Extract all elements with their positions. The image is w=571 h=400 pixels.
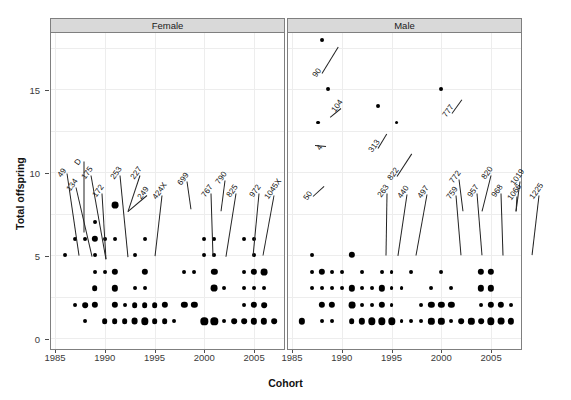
y-tick-mark — [45, 256, 49, 257]
data-point — [141, 318, 148, 325]
data-point — [242, 286, 246, 290]
data-point — [83, 320, 87, 324]
data-point — [132, 302, 138, 308]
data-point — [252, 286, 256, 290]
data-point — [131, 318, 138, 325]
data-point — [299, 318, 305, 324]
data-point — [449, 286, 453, 290]
data-point — [112, 285, 118, 291]
data-point — [438, 302, 444, 308]
data-point — [428, 302, 434, 308]
data-point — [330, 270, 334, 274]
data-point — [410, 270, 414, 274]
data-point — [181, 302, 187, 308]
data-point — [320, 320, 324, 324]
gridline-horizontal — [51, 48, 284, 49]
data-point — [192, 270, 196, 274]
gridline-horizontal — [51, 338, 284, 339]
data-point — [478, 319, 484, 325]
data-point — [63, 253, 67, 257]
data-point — [262, 286, 266, 290]
data-point — [113, 237, 117, 241]
data-point — [388, 318, 395, 325]
data-point — [439, 87, 443, 91]
data-point — [340, 286, 344, 290]
data-point — [102, 319, 108, 325]
data-point — [73, 303, 77, 307]
data-point — [348, 301, 355, 308]
data-point — [310, 286, 314, 290]
data-point — [231, 319, 237, 325]
data-point — [251, 269, 257, 275]
gridline-horizontal — [288, 131, 521, 132]
data-point — [112, 319, 118, 325]
x-tick-label: 1990 — [331, 352, 352, 363]
y-tick-mark — [45, 90, 49, 91]
data-point — [330, 320, 334, 324]
data-point — [123, 303, 127, 307]
data-point — [242, 270, 246, 274]
data-point — [498, 318, 505, 325]
data-point — [410, 320, 414, 324]
data-point — [509, 303, 513, 307]
data-point — [122, 319, 128, 325]
data-point — [242, 303, 246, 307]
data-point — [261, 318, 267, 324]
data-point — [182, 270, 186, 274]
data-point — [162, 319, 168, 325]
data-point — [438, 318, 444, 324]
y-tick-mark — [45, 173, 49, 174]
data-point — [487, 318, 494, 325]
gridline-horizontal — [51, 297, 284, 298]
data-point — [191, 302, 197, 308]
y-tick-mark — [45, 339, 49, 340]
data-point — [93, 253, 97, 257]
data-point — [82, 302, 88, 308]
data-point — [271, 319, 277, 325]
data-point — [222, 286, 226, 290]
y-tick-label: 0 — [8, 334, 40, 345]
gridline-horizontal — [288, 338, 521, 339]
data-point — [319, 269, 325, 275]
data-point — [378, 285, 384, 291]
data-point — [340, 270, 344, 274]
data-point — [390, 286, 394, 290]
label-leader-line — [532, 195, 540, 255]
male-point-label: 1225 — [528, 181, 546, 201]
data-point — [370, 286, 374, 290]
data-point — [103, 270, 107, 274]
data-point — [143, 286, 147, 290]
gridline-vertical — [392, 33, 393, 349]
x-tick-label: 1995 — [381, 352, 402, 363]
data-point — [201, 318, 208, 325]
panel-male-title: Male — [287, 18, 522, 33]
data-point — [400, 286, 404, 290]
data-point — [222, 320, 226, 324]
x-tick-label: 1985 — [44, 352, 65, 363]
data-point — [360, 286, 364, 290]
data-point — [202, 237, 206, 241]
data-point — [241, 319, 247, 325]
gridline-horizontal — [51, 214, 284, 215]
y-tick-label: 5 — [8, 251, 40, 262]
x-tick-label: 1990 — [94, 352, 115, 363]
data-point — [479, 303, 483, 307]
data-point — [251, 318, 257, 324]
x-tick-label: 2000 — [194, 352, 215, 363]
y-tick-label: 10 — [8, 168, 40, 179]
data-point — [211, 285, 218, 292]
gridline-horizontal — [288, 48, 521, 49]
gridline-vertical — [342, 33, 343, 349]
data-point — [142, 302, 148, 308]
x-tick-label: 2000 — [431, 352, 452, 363]
data-point — [112, 302, 118, 308]
data-point — [390, 303, 394, 307]
data-point — [419, 320, 423, 324]
data-point — [261, 268, 268, 275]
x-tick-label: 1995 — [144, 352, 165, 363]
y-tick-label: 15 — [8, 85, 40, 96]
data-point — [316, 121, 320, 125]
data-point — [360, 303, 364, 307]
data-point — [261, 302, 267, 308]
gridline-horizontal — [288, 89, 521, 90]
